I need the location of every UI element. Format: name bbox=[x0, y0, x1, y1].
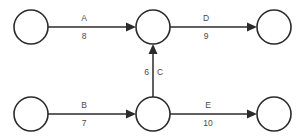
node-n2[interactable] bbox=[136, 10, 170, 44]
edge-d[interactable]: D 9 bbox=[170, 13, 257, 41]
edge-c-name-label: C bbox=[157, 67, 163, 77]
node-n1[interactable] bbox=[14, 10, 48, 44]
directed-graph: A 8 D 9 C 6 B 7 E 10 bbox=[0, 0, 304, 140]
node-n4[interactable] bbox=[14, 97, 48, 131]
edge-d-arrowhead bbox=[247, 23, 257, 32]
edge-a-arrowhead bbox=[126, 23, 136, 32]
edge-c-weight-label: 6 bbox=[144, 67, 149, 77]
node-n6[interactable] bbox=[257, 97, 291, 131]
edge-a-name-label: A bbox=[81, 13, 87, 23]
edge-b[interactable]: B 7 bbox=[48, 100, 136, 128]
diagram-canvas: A 8 D 9 C 6 B 7 E 10 bbox=[0, 0, 304, 140]
edge-d-name-label: D bbox=[203, 13, 209, 23]
edge-e[interactable]: E 10 bbox=[170, 100, 257, 128]
edge-b-name-label: B bbox=[81, 100, 87, 110]
edge-a-weight-label: 8 bbox=[82, 31, 87, 41]
edge-b-weight-label: 7 bbox=[82, 118, 87, 128]
edge-a[interactable]: A 8 bbox=[48, 13, 136, 41]
edge-e-weight-label: 10 bbox=[203, 118, 213, 128]
edge-e-arrowhead bbox=[247, 110, 257, 119]
edge-d-weight-label: 9 bbox=[204, 31, 209, 41]
edge-c[interactable]: C 6 bbox=[144, 44, 163, 97]
edge-e-name-label: E bbox=[205, 100, 211, 110]
edge-b-arrowhead bbox=[126, 110, 136, 119]
node-n5[interactable] bbox=[136, 97, 170, 131]
node-n3[interactable] bbox=[257, 10, 291, 44]
edge-c-arrowhead bbox=[149, 44, 158, 54]
